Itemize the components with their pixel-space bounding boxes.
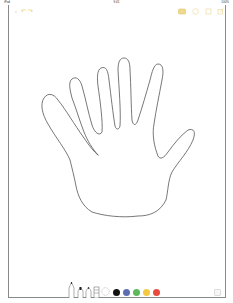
pencil-tool[interactable] <box>85 286 92 298</box>
eraser-tool[interactable] <box>93 286 100 298</box>
lasso-tool[interactable] <box>101 287 110 296</box>
color-green[interactable] <box>133 289 140 296</box>
hand-outline <box>42 58 194 217</box>
drawing-tools <box>68 280 188 298</box>
marker-tool[interactable] <box>77 286 84 298</box>
drawing-canvas[interactable] <box>0 0 233 303</box>
color-black[interactable] <box>113 289 120 296</box>
ruler-button[interactable] <box>214 289 221 296</box>
pen-tool[interactable] <box>68 281 75 298</box>
color-yellow[interactable] <box>143 289 150 296</box>
color-red[interactable] <box>153 289 160 296</box>
color-blue[interactable] <box>123 289 130 296</box>
